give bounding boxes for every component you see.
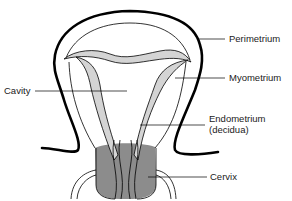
vaginal-wall-left-outer	[71, 170, 96, 199]
label-myometrium: Myometrium	[229, 72, 281, 83]
label-perimetrium: Perimetrium	[229, 33, 280, 44]
label-decidua: (decidua)	[209, 124, 249, 135]
vaginal-wall-right-inner	[156, 175, 171, 199]
uterus-diagram: Perimetrium Myometrium Cavity Endometriu…	[0, 0, 292, 201]
uterus-illustration	[0, 0, 292, 201]
vaginal-wall-right-outer	[156, 170, 176, 199]
perimetrium-outline	[42, 11, 218, 154]
cervix-shape	[95, 143, 156, 199]
label-cervix: Cervix	[210, 171, 237, 182]
label-cavity: Cavity	[4, 85, 30, 96]
vaginal-wall-left-inner	[77, 175, 96, 199]
label-endometrium: Endometrium	[209, 113, 266, 124]
endometrium-left-band	[76, 57, 118, 160]
